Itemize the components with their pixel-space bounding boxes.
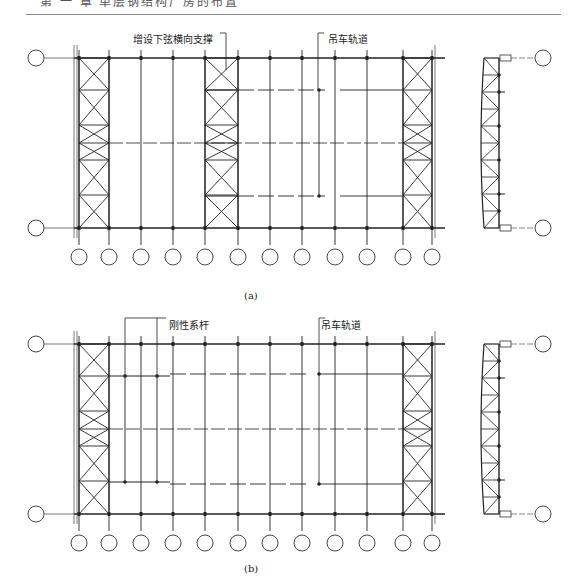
bracing-label: 增设下弦横向支撑 xyxy=(133,31,213,46)
figure-b-truss-elevation xyxy=(481,341,535,517)
rail-label-a: 吊车轨道 xyxy=(328,31,368,46)
figure-a-truss-elevation xyxy=(481,55,535,231)
caption-a: (a) xyxy=(244,290,258,301)
rail-label-b: 吊车轨道 xyxy=(321,317,361,332)
structural-plan-drawing xyxy=(0,0,578,585)
figure-a-plan xyxy=(28,33,551,265)
figure-b-plan xyxy=(28,318,551,551)
caption-b: (b) xyxy=(244,563,258,574)
rigid-tie-label: 刚性系杆 xyxy=(169,317,209,332)
